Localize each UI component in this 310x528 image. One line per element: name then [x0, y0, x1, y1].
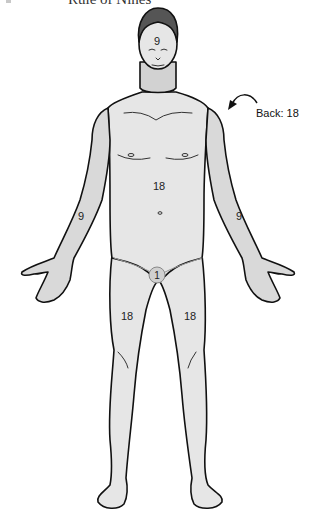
left-leg-percent-label: 18: [184, 310, 196, 322]
left-arm-percent-label: 9: [236, 210, 242, 222]
right-leg-shape: [98, 255, 160, 508]
left-arm-shape: [206, 108, 294, 302]
back-percent-label: Back: 18: [256, 107, 299, 119]
trunk-percent-label: 18: [153, 180, 165, 192]
right-arm-shape: [22, 108, 110, 302]
rule-of-nines-diagram: Rule of Nines: [0, 0, 310, 528]
right-leg-percent-label: 18: [121, 310, 133, 322]
left-leg-shape: [157, 255, 222, 508]
perineum-percent-label: 1: [154, 270, 160, 281]
head-percent-label: 9: [154, 35, 160, 47]
body-figure: [0, 0, 310, 528]
right-arm-percent-label: 9: [78, 210, 84, 222]
curved-arrow-icon: [228, 95, 257, 110]
